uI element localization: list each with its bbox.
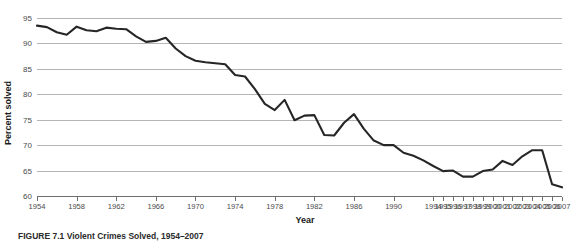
x-tick-label: 1966 bbox=[147, 202, 164, 211]
figure-container: 6065707580859095 19541958196219661970197… bbox=[0, 0, 584, 241]
x-tick-label: 1954 bbox=[29, 202, 46, 211]
line-chart: 6065707580859095 19541958196219661970197… bbox=[0, 0, 584, 241]
y-tick-label: 80 bbox=[23, 90, 32, 99]
x-axis-title: Year bbox=[295, 215, 315, 225]
y-axis-tick-labels: 6065707580859095 bbox=[23, 14, 32, 201]
data-series-line bbox=[37, 26, 562, 188]
series-line-percent-solved bbox=[37, 26, 562, 188]
y-tick-label: 90 bbox=[23, 39, 32, 48]
x-tick-label: 1970 bbox=[187, 202, 204, 211]
y-axis-title: Percent solved bbox=[3, 81, 13, 145]
y-tick-label: 75 bbox=[23, 116, 32, 125]
x-axis bbox=[37, 197, 563, 201]
figure-caption: FIGURE 7.1 Violent Crimes Solved, 1954–2… bbox=[18, 231, 538, 241]
gridlines bbox=[37, 19, 562, 172]
x-tick-label: 1982 bbox=[306, 202, 323, 211]
x-tick-label: 1958 bbox=[68, 202, 85, 211]
x-tick-label: 2007 bbox=[554, 202, 571, 211]
x-tick-label: 1978 bbox=[266, 202, 283, 211]
y-tick-label: 70 bbox=[23, 141, 32, 150]
x-tick-label: 1986 bbox=[346, 202, 363, 211]
x-tick-label: 1990 bbox=[385, 202, 402, 211]
y-tick-label: 65 bbox=[23, 167, 32, 176]
x-tick-label: 1974 bbox=[227, 202, 244, 211]
y-tick-label: 95 bbox=[23, 14, 32, 23]
y-tick-label: 60 bbox=[23, 192, 32, 201]
x-axis-tick-labels: 1954195819621966197019741978198219861990… bbox=[29, 202, 571, 211]
y-tick-label: 85 bbox=[23, 65, 32, 74]
x-tick-label: 1962 bbox=[108, 202, 125, 211]
